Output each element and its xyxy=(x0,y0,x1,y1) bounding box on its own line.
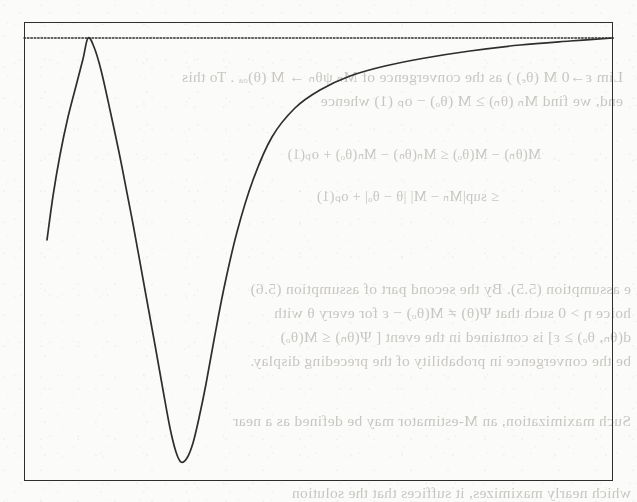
data-curve xyxy=(47,38,613,463)
series-group xyxy=(24,38,613,463)
figure-page: Lim ε→0 M (θₑ) ) as the convergence of M… xyxy=(0,0,637,502)
plot-canvas xyxy=(0,0,637,502)
